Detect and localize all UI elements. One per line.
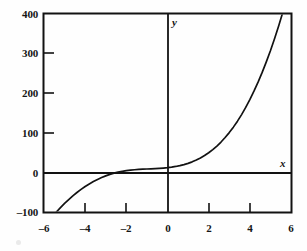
x-tick-label-neg2: –2 [112, 222, 140, 234]
x-tick-label-4: 4 [236, 222, 264, 234]
x-tick-label-2: 2 [195, 222, 223, 234]
scan-speckle-artifact [16, 240, 21, 245]
y-tick-label-300: 300 [0, 47, 38, 59]
x-tick-label-neg4: –4 [71, 222, 99, 234]
chart-figure: 400 300 200 100 0 –100 –6 –4 –2 0 2 4 6 … [0, 0, 307, 251]
x-tick-label-neg6: –6 [30, 222, 58, 234]
y-tick-label-100: 100 [0, 127, 38, 139]
x-tick-label-0: 0 [154, 222, 182, 234]
y-axis-label: y [172, 16, 177, 28]
x-tick-label-6: 6 [277, 222, 305, 234]
data-curve [56, 0, 291, 212]
y-tick-label-200: 200 [0, 87, 38, 99]
plot-canvas [0, 0, 307, 251]
y-tick-marks [44, 53, 54, 133]
y-tick-label-0: 0 [0, 167, 38, 179]
x-axis-label: x [280, 157, 286, 169]
y-tick-label-400: 400 [0, 8, 38, 20]
y-tick-label-neg100: –100 [0, 206, 38, 218]
